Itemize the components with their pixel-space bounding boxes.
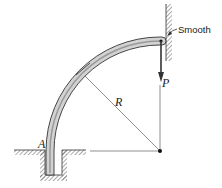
label-smooth: Smooth [178, 25, 211, 35]
label-r: R [115, 96, 122, 108]
diagram-canvas: A R P Smooth [0, 0, 222, 188]
label-p: P [162, 77, 169, 89]
center-point [158, 149, 162, 153]
radius-line [85, 76, 160, 151]
smooth-wall [166, 4, 172, 61]
label-a: A [38, 138, 45, 150]
